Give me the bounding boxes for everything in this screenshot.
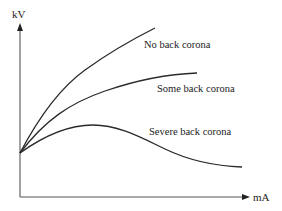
chart: kV mA No back corona Some back corona Se… — [0, 0, 282, 211]
y-axis-arrow-icon — [17, 23, 23, 31]
label-some-back-corona: Some back corona — [157, 83, 235, 94]
y-axis-label: kV — [12, 8, 26, 20]
label-no-back-corona: No back corona — [144, 39, 211, 50]
x-axis-arrow-icon — [242, 194, 250, 200]
x-axis-label: mA — [253, 191, 270, 203]
label-severe-back-corona: Severe back corona — [149, 126, 232, 137]
